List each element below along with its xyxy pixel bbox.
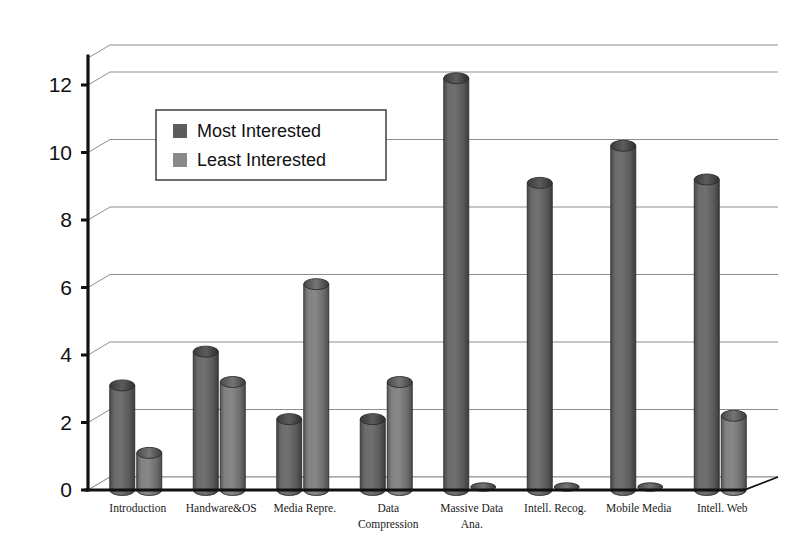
bar-cap	[220, 377, 245, 388]
bar-cap	[360, 414, 385, 425]
bar-body	[193, 352, 218, 496]
bar-body	[220, 382, 245, 496]
bar	[387, 377, 412, 496]
bar	[721, 410, 746, 495]
floor-plane	[88, 477, 778, 490]
bar	[694, 174, 719, 496]
bar-body	[387, 382, 412, 496]
chart-legend: Most InterestedLeast Interested	[156, 110, 386, 180]
y-axis-tick-label: 10	[49, 141, 72, 164]
bar-body	[611, 146, 636, 496]
bar-cap	[137, 447, 162, 458]
bar	[137, 447, 162, 495]
bar-cap	[694, 174, 719, 185]
bar	[360, 414, 385, 496]
y-axis-tick-label: 8	[60, 208, 72, 231]
bar-cap	[193, 346, 218, 357]
chart-canvas: 024681012 IntroductionHandware&OSMedia R…	[0, 0, 799, 546]
bar-body	[304, 284, 329, 495]
y-axis-tick-label: 6	[60, 276, 72, 299]
x-axis-category-label: Mobile Media	[606, 502, 671, 514]
bar-cap	[277, 414, 302, 425]
legend-swatch-icon	[173, 153, 187, 167]
bar	[444, 73, 469, 496]
bar-cap	[110, 380, 135, 391]
y-axis-tick-label: 0	[60, 478, 72, 501]
bar-body	[110, 385, 135, 495]
bar-cap	[444, 73, 469, 84]
bar	[193, 346, 218, 495]
bar	[611, 140, 636, 495]
x-axis-category-label: Media Repre.	[273, 502, 336, 515]
legend-entry-label: Least Interested	[197, 150, 326, 170]
bar-cap	[721, 410, 746, 421]
x-axis-category-label: Handware&OS	[186, 502, 257, 514]
legend-entry-label: Most Interested	[197, 121, 321, 141]
bar-cap	[304, 279, 329, 290]
bar	[304, 279, 329, 496]
x-axis-category-label: Introduction	[109, 502, 166, 514]
bar-body	[277, 419, 302, 495]
chart-floor	[88, 477, 778, 490]
bar-cap	[611, 140, 636, 151]
bar-cap	[527, 177, 552, 188]
bar-body	[721, 416, 746, 496]
bar	[110, 380, 135, 496]
y-axis-tick-label: 12	[49, 73, 72, 96]
y-axis-tick-label: 4	[60, 343, 72, 366]
bar	[527, 177, 552, 495]
bar-body	[527, 183, 552, 496]
bar	[277, 414, 302, 496]
bar	[220, 377, 245, 496]
bar-body	[360, 419, 385, 495]
x-axis-category-label: Intell. Recog.	[524, 502, 586, 515]
bar-body	[694, 180, 719, 496]
x-axis-category-label: Intell. Web	[697, 502, 748, 514]
legend-swatch-icon	[173, 124, 187, 138]
y-axis-tick-label: 2	[60, 411, 72, 434]
bar-body	[444, 78, 469, 495]
bar-chart-figure: 024681012 IntroductionHandware&OSMedia R…	[0, 0, 799, 546]
bar-cap	[387, 377, 412, 388]
